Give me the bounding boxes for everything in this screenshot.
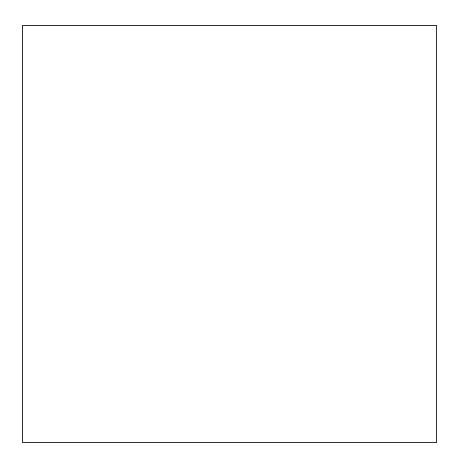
tiling-diagram (22, 25, 437, 443)
